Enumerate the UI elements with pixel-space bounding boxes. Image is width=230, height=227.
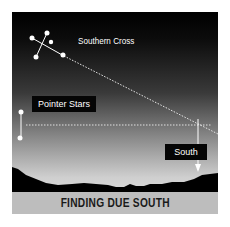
arrow-down-icon — [195, 164, 201, 172]
star-icon — [49, 40, 53, 44]
south-label: South — [165, 144, 207, 160]
pointer-star-icon — [18, 136, 23, 141]
star-icon — [30, 36, 35, 41]
star-icon — [45, 31, 50, 36]
night-sky: Southern Cross Pointer Stars South — [12, 12, 218, 192]
southern-cross-label: Southern Cross — [78, 36, 134, 46]
caption-bar: FINDING DUE SOUTH — [12, 192, 218, 214]
star-icon — [34, 55, 39, 60]
diagram-title: FINDING DUE SOUTH — [60, 196, 169, 210]
pointer-stars-label: Pointer Stars — [32, 96, 96, 112]
pointer-star-icon — [19, 110, 24, 115]
diagram-frame: Southern Cross Pointer Stars South FINDI… — [12, 12, 218, 212]
star-icon — [61, 53, 66, 58]
horizon-silhouette — [12, 167, 218, 192]
